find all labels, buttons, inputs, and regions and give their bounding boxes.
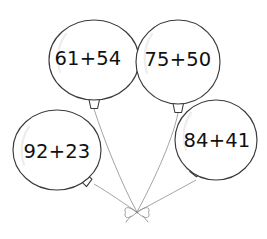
worksheet-canvas: 61+54 75+50 92+23 84+41 (0, 0, 267, 239)
string-balloon-4 (137, 180, 196, 212)
balloon-4-expression: 84+41 (184, 131, 251, 151)
balloon-bunch-illustration (0, 0, 267, 239)
bow-knot-icon (125, 208, 149, 222)
balloon-1-neck (89, 100, 100, 109)
string-balloon-1 (94, 109, 137, 212)
balloon-2-neck (173, 104, 184, 113)
balloon-2-expression: 75+50 (145, 50, 212, 70)
balloon-3-expression: 92+23 (24, 142, 91, 162)
string-balloon-2 (137, 113, 178, 212)
balloon-1-expression: 61+54 (55, 49, 122, 69)
